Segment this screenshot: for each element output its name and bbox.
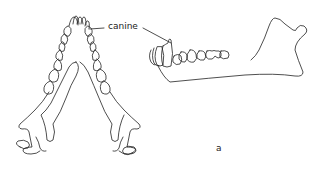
figure-canvas: canine a [0, 0, 311, 173]
ventral-view-mandible [16, 16, 140, 155]
canine-label: canine [108, 21, 138, 31]
mandible-drawing [0, 0, 311, 173]
canine-leader-line [90, 28, 104, 29]
lateral-view-mandible [150, 18, 307, 82]
panel-label: a [216, 143, 222, 153]
canine-leader-line-right [143, 28, 171, 43]
